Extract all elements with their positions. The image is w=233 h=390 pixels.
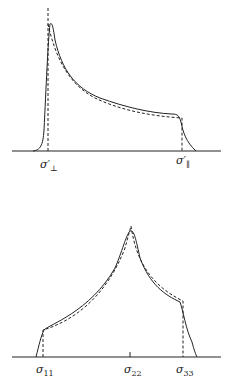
label-sigma-perp: σ′⊥ — [40, 159, 58, 173]
label-sigma11: σ11 — [36, 364, 54, 378]
top-panel — [12, 8, 221, 151]
label-sigma33: σ33 — [176, 364, 194, 378]
top-broadened-curve — [33, 24, 196, 151]
label-sigma22: σ22 — [124, 364, 142, 378]
label-subscript: 22 — [132, 369, 142, 378]
label-subscript: 33 — [184, 369, 194, 378]
label-sigma-parallel: σ′∥ — [176, 155, 190, 169]
label-subscript: ∥ — [186, 160, 190, 169]
bottom-broadened-curve — [36, 231, 197, 357]
label-symbol: σ — [124, 363, 132, 376]
bottom-panel — [12, 226, 221, 357]
label-subscript: ⊥ — [50, 164, 58, 173]
label-subscript: 11 — [44, 369, 54, 378]
label-symbol: σ — [40, 158, 48, 171]
powder-pattern-diagram — [0, 0, 233, 390]
label-symbol: σ — [36, 363, 44, 376]
top-ideal-curve — [48, 8, 182, 151]
label-symbol: σ — [176, 154, 184, 167]
label-symbol: σ — [176, 363, 184, 376]
